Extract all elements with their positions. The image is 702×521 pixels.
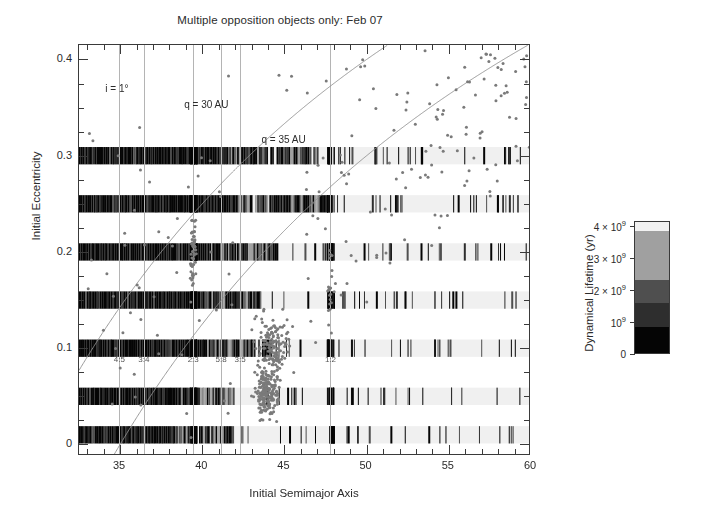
x-tick-major — [449, 45, 450, 54]
x-tick-major — [515, 449, 516, 454]
x-tick-major — [219, 449, 220, 454]
plot-annotation: q = 35 AU — [261, 134, 305, 145]
x-tick-label: 50 — [360, 459, 372, 471]
x-tick-major — [252, 449, 253, 454]
x-tick-major — [383, 449, 384, 454]
x-tick-major — [334, 45, 335, 50]
x-tick-major — [219, 45, 220, 50]
y-tick — [524, 204, 529, 205]
x-tick-major — [284, 445, 285, 454]
x-tick-major — [153, 449, 154, 454]
x-tick-major — [301, 449, 302, 454]
plot-annotation: q = 30 AU — [184, 99, 228, 110]
y-tick — [79, 420, 84, 421]
y-tick — [79, 396, 84, 397]
x-tick-major — [284, 45, 285, 54]
x-tick-major — [153, 45, 154, 50]
x-tick-major — [400, 45, 401, 50]
x-tick-major — [400, 449, 401, 454]
x-tick-major — [367, 45, 368, 54]
x-tick-label: 60 — [524, 459, 536, 471]
resonance-label: 3:5 — [235, 355, 246, 364]
colorbar-tick — [630, 322, 635, 323]
x-tick-major — [350, 449, 351, 454]
y-tick — [79, 348, 88, 349]
y-axis-title: Initial Eccentricity — [30, 96, 42, 296]
x-tick-major — [432, 45, 433, 50]
y-tick — [79, 156, 88, 157]
x-tick-major — [432, 449, 433, 454]
colorbar — [634, 221, 670, 354]
x-tick-major — [301, 45, 302, 50]
chart-title: Multiple opposition objects only: Feb 07 — [0, 14, 560, 26]
x-tick-major — [465, 449, 466, 454]
colorbar-segment — [635, 280, 669, 304]
plot-annotation: i = 1° — [105, 83, 128, 94]
colorbar-tick — [630, 258, 635, 259]
x-tick-major — [482, 449, 483, 454]
y-tick — [520, 348, 529, 349]
y-tick — [524, 300, 529, 301]
x-tick-major — [268, 45, 269, 50]
x-tick-major — [334, 449, 335, 454]
x-tick-major — [202, 445, 203, 454]
x-tick-label: 55 — [442, 459, 454, 471]
colorbar-segment — [635, 222, 669, 231]
y-tick-label: 0 — [44, 437, 72, 449]
x-tick-major — [186, 449, 187, 454]
x-tick-major — [87, 449, 88, 454]
x-tick-major — [252, 45, 253, 50]
x-tick-major — [235, 45, 236, 50]
y-tick — [524, 228, 529, 229]
y-tick — [524, 324, 529, 325]
y-tick — [520, 444, 529, 445]
y-tick-label: 0.3 — [44, 149, 72, 161]
resonance-label: 5:8 — [216, 355, 227, 364]
x-tick-major — [169, 45, 170, 50]
resonance-label: 4:5 — [114, 355, 125, 364]
x-tick-major — [367, 445, 368, 454]
resonance-label: 2:3 — [188, 355, 199, 364]
y-tick — [79, 324, 84, 325]
y-tick — [524, 420, 529, 421]
y-tick — [524, 396, 529, 397]
x-tick-major — [515, 45, 516, 50]
x-tick-major — [317, 45, 318, 50]
x-tick-major — [104, 449, 105, 454]
x-axis-title: Initial Semimajor Axis — [78, 487, 530, 499]
y-tick — [79, 252, 88, 253]
plot-canvas — [79, 45, 530, 455]
y-tick — [520, 156, 529, 157]
x-tick-major — [169, 449, 170, 454]
colorbar-segment — [635, 231, 669, 279]
x-tick-major — [137, 45, 138, 50]
x-tick-major — [498, 45, 499, 50]
y-tick — [79, 108, 84, 109]
y-tick — [79, 228, 84, 229]
y-tick — [520, 59, 529, 60]
x-tick-major — [317, 449, 318, 454]
y-tick — [79, 444, 88, 445]
x-tick-major — [235, 449, 236, 454]
y-tick — [524, 108, 529, 109]
y-tick-label: 0.2 — [44, 245, 72, 257]
x-tick-major — [268, 449, 269, 454]
x-tick-major — [186, 45, 187, 50]
y-tick — [79, 132, 84, 133]
x-tick-major — [120, 45, 121, 54]
y-tick — [524, 84, 529, 85]
x-tick-major — [137, 449, 138, 454]
resonance-label: 3:4 — [138, 355, 149, 364]
x-tick-major — [498, 449, 499, 454]
colorbar-tick — [630, 290, 635, 291]
y-tick — [79, 59, 88, 60]
colorbar-tick — [630, 226, 635, 227]
y-tick-label: 0.1 — [44, 341, 72, 353]
colorbar-tick — [630, 354, 635, 355]
x-tick-label: 45 — [277, 459, 289, 471]
y-tick — [524, 276, 529, 277]
scatter-plot-axes: i = 1°q = 30 AUq = 35 AU 4:53:42:35:83:5… — [78, 44, 530, 455]
y-tick-label: 0.4 — [44, 52, 72, 64]
resonance-label: 1:2 — [325, 355, 336, 364]
y-tick — [520, 252, 529, 253]
